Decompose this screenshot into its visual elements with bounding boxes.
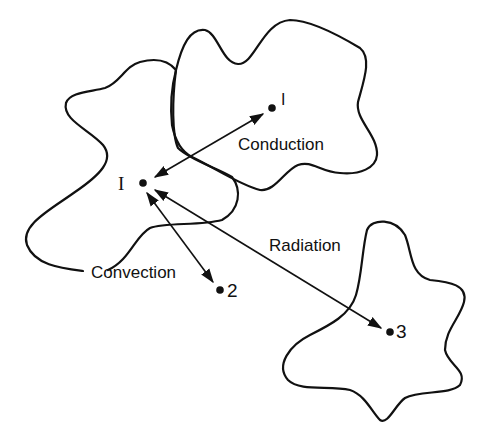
node-1-dot bbox=[268, 104, 276, 112]
node-3-label: 3 bbox=[396, 322, 407, 341]
node-1-label: I bbox=[281, 92, 285, 108]
node-I-dot bbox=[139, 179, 147, 187]
node-2-dot bbox=[216, 286, 224, 294]
heat-transfer-diagram: I I 2 3 Conduction Convection Radiation bbox=[0, 0, 494, 443]
convection-label: Convection bbox=[91, 264, 176, 281]
radiation-label: Radiation bbox=[269, 237, 341, 254]
node-3-dot bbox=[386, 328, 394, 336]
arrow-radiation bbox=[155, 190, 381, 328]
node-2-label: 2 bbox=[227, 281, 238, 300]
conduction-label: Conduction bbox=[238, 136, 324, 153]
node-I-label: I bbox=[118, 174, 124, 193]
diagram-canvas bbox=[0, 0, 494, 443]
